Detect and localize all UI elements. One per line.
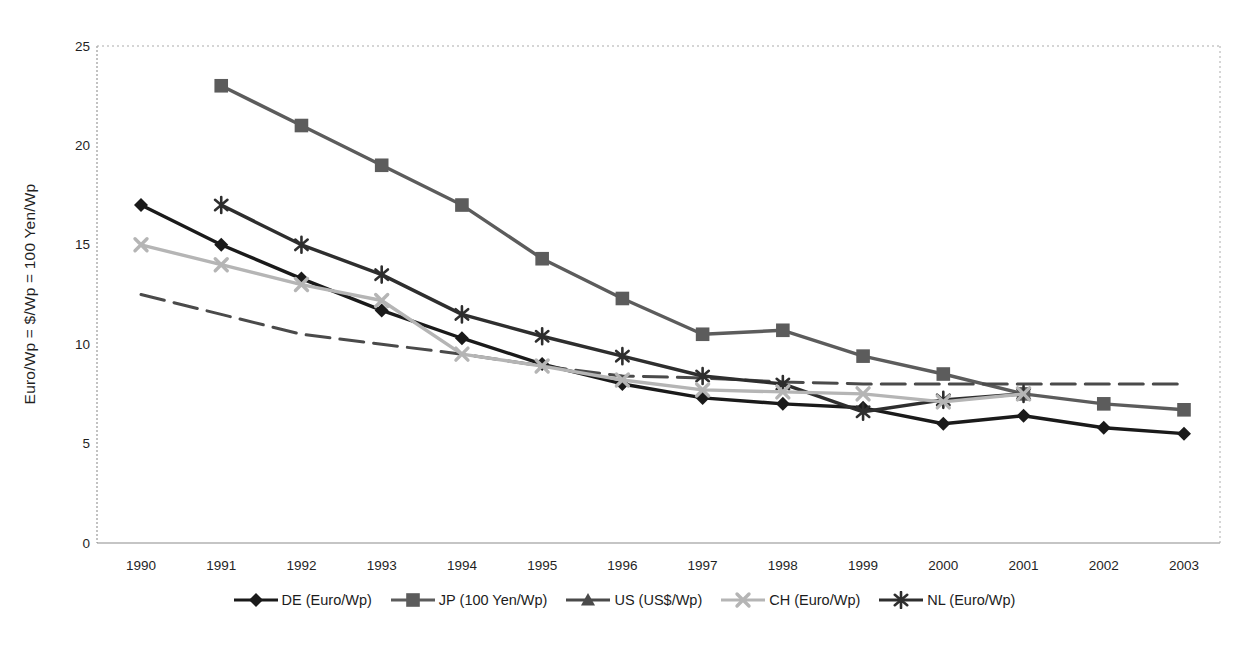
x-tick-label: 2000 [928, 558, 958, 573]
square-marker [696, 327, 710, 341]
y-tick-label: 20 [75, 138, 90, 153]
y-axis-title: Euro/Wp = $/Wp = 100 Yen/Wp [21, 184, 39, 405]
x-tick-label: 2002 [1089, 558, 1119, 573]
y-tick-label: 10 [75, 337, 90, 352]
square-marker [406, 593, 420, 607]
legend-item-de: DE (Euro/Wp) [233, 591, 372, 609]
series-line [221, 86, 1184, 410]
square-marker [937, 367, 951, 381]
x-tick-label: 1999 [848, 558, 878, 573]
diamond-marker [1097, 421, 1111, 435]
legend-label-de: DE (Euro/Wp) [282, 592, 372, 608]
x-tick-label: 1993 [367, 558, 397, 573]
x-tick-label: 2003 [1169, 558, 1199, 573]
x-tick-label: 1996 [607, 558, 637, 573]
legend-label-ch: CH (Euro/Wp) [769, 592, 860, 608]
y-axis-tick-labels: 0510152025 [75, 39, 90, 551]
star-marker [215, 197, 227, 213]
square-marker [214, 79, 228, 93]
diamond-marker [455, 331, 469, 345]
diamond-marker [1177, 427, 1191, 441]
price-trend-chart: 0510152025199019911992199319941995199619… [0, 0, 1248, 653]
chart-legend: DE (Euro/Wp) JP (100 Yen/Wp) US (US$/Wp)… [0, 591, 1248, 609]
x-tick-label: 1997 [688, 558, 718, 573]
square-marker [295, 119, 309, 133]
square-marker [535, 252, 549, 266]
legend-label-nl: NL (Euro/Wp) [927, 592, 1015, 608]
x-tick-label: 1994 [447, 558, 478, 573]
diamond-marker [134, 198, 148, 212]
x-marker-icon [720, 591, 766, 609]
diamond-marker [1017, 409, 1031, 423]
y-tick-label: 25 [75, 39, 90, 54]
x-tick-label: 1992 [286, 558, 316, 573]
x-axis-labels: 1990199119921993199419951996199719981999… [126, 558, 1199, 573]
y-tick-label: 5 [82, 436, 90, 451]
series-de [134, 198, 1191, 441]
square-marker [776, 323, 790, 337]
legend-item-us: US (US$/Wp) [565, 591, 702, 609]
square-marker [1097, 397, 1111, 411]
y-tick-label: 15 [75, 237, 90, 252]
square-marker-icon [390, 591, 436, 609]
legend-item-jp: JP (100 Yen/Wp) [390, 591, 548, 609]
legend-label-jp: JP (100 Yen/Wp) [439, 592, 548, 608]
star-marker-icon [878, 591, 924, 609]
legend-item-nl: NL (Euro/Wp) [878, 591, 1015, 609]
triangle-marker-icon [565, 591, 611, 609]
diamond-marker [214, 238, 228, 252]
square-marker [856, 349, 870, 363]
x-tick-label: 1995 [527, 558, 557, 573]
series-line [141, 295, 1184, 384]
square-marker [455, 198, 469, 212]
x-tick-label: 1991 [206, 558, 236, 573]
plot-frame [97, 46, 1220, 543]
series-jp [214, 79, 1190, 417]
series-us [141, 295, 1184, 384]
x-tick-label: 1990 [126, 558, 156, 573]
legend-label-us: US (US$/Wp) [614, 592, 702, 608]
x-tick-label: 1998 [768, 558, 798, 573]
diamond-marker [249, 593, 263, 607]
diamond-marker [936, 417, 950, 431]
y-tick-label: 0 [82, 536, 90, 551]
square-marker [616, 292, 630, 306]
diamond-marker-icon [233, 591, 279, 609]
square-marker [1177, 403, 1191, 417]
legend-item-ch: CH (Euro/Wp) [720, 591, 860, 609]
x-tick-label: 2001 [1009, 558, 1039, 573]
square-marker [375, 158, 389, 172]
chart-figure: 0510152025199019911992199319941995199619… [0, 0, 1248, 653]
